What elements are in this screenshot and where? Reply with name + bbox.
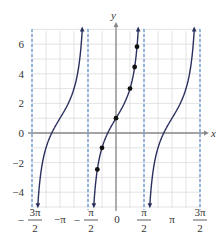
arrow-down-icon (148, 203, 153, 208)
y-tick-label: −4 (12, 186, 24, 198)
y-tick-label: 6 (19, 38, 25, 50)
x-tick-numerator: 3π (194, 206, 206, 218)
x-tick-denominator: 2 (88, 222, 94, 234)
data-point (132, 65, 137, 70)
x-tick-denominator: 2 (32, 222, 38, 234)
y-tick-label: −2 (12, 157, 24, 169)
data-point (135, 44, 140, 49)
x-tick-numerator: π (141, 206, 147, 218)
x-tick-numerator: 3π (29, 206, 41, 218)
x-tick-denominator: 2 (141, 222, 147, 234)
x-tick-denominator: 2 (197, 222, 203, 234)
y-axis-arrow-icon (114, 22, 119, 27)
data-point (128, 86, 133, 91)
x-tick-label: 0 (114, 213, 120, 225)
tangent-chart: xy −4−20246−3π2−π−π20π2π3π2 (0, 0, 224, 249)
x-tick-sign: − (74, 214, 80, 226)
x-tick-label: −π (54, 213, 66, 225)
y-tick-label: 0 (19, 127, 25, 139)
tick-labels: −4−20246−3π2−π−π20π2π3π2 (12, 38, 207, 234)
data-point (95, 167, 100, 172)
x-axis-arrow-icon (204, 131, 209, 136)
y-tick-label: 4 (19, 68, 25, 80)
x-tick-sign: − (18, 214, 24, 226)
y-tick-label: 2 (19, 97, 25, 109)
x-axis-label: x (210, 127, 216, 139)
axes: xy (28, 9, 216, 211)
x-tick-numerator: π (88, 206, 94, 218)
x-tick-label: π (169, 213, 175, 225)
data-point (114, 116, 119, 121)
data-point (100, 145, 105, 150)
y-axis-label: y (110, 9, 116, 21)
